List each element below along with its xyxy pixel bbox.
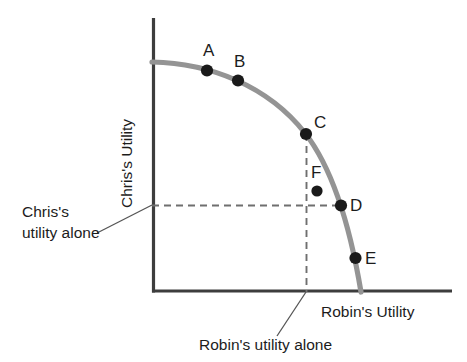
data-point-label-c: C bbox=[314, 113, 326, 132]
data-point-e bbox=[349, 252, 361, 264]
chris-utility-alone-note-line1: Chris's bbox=[22, 203, 69, 220]
chris-utility-alone-note-line2: utility alone bbox=[22, 224, 100, 241]
robin-utility-alone-note: Robin's utility alone bbox=[199, 336, 332, 353]
data-point-label-b: B bbox=[234, 52, 246, 71]
data-point-a bbox=[201, 64, 213, 76]
x-axis-title: Robin's Utility bbox=[321, 303, 414, 320]
y-axis-title: Chris's Utility bbox=[118, 119, 135, 208]
data-point-d bbox=[335, 199, 347, 211]
data-point-label-d: D bbox=[350, 196, 362, 215]
data-point-label-f: F bbox=[311, 163, 322, 182]
data-point-label-e: E bbox=[365, 249, 377, 268]
data-point-c bbox=[300, 128, 312, 140]
chart-figure: A B C D E F Chris's Utility Robin's Util… bbox=[0, 0, 467, 362]
data-point-f bbox=[311, 185, 322, 196]
data-point-b bbox=[232, 74, 244, 86]
chris-note-leader-line bbox=[97, 205, 152, 233]
frontier-curve bbox=[152, 62, 361, 292]
data-point-label-a: A bbox=[203, 41, 215, 60]
robin-note-leader-line bbox=[277, 292, 306, 336]
